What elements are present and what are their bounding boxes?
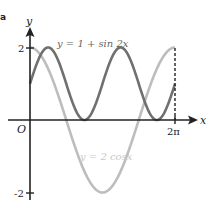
origin-label: O	[17, 123, 26, 136]
sin-curve	[30, 48, 175, 121]
x-axis-label: x	[200, 114, 207, 127]
y-axis-label: y	[25, 15, 33, 28]
sin-curve-label: y = 1 + sin 2x	[56, 38, 129, 49]
chart: y x O 2 -2 2π y = 1 + sin 2x y = 2 cosx	[0, 0, 208, 213]
x-tick-label-2pi: 2π	[167, 126, 180, 137]
y-tick-label-2: 2	[18, 43, 24, 54]
cos-curve-label: y = 2 cosx	[79, 151, 133, 162]
y-tick-label-neg2: -2	[14, 188, 24, 199]
